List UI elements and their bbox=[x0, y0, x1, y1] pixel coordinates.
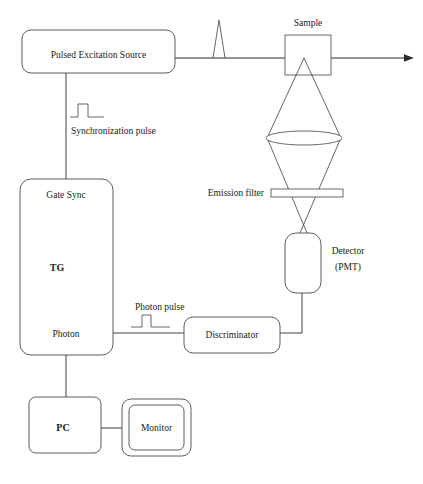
pulsed-excitation-source-block[interactable]: Pulsed Excitation Source bbox=[22, 30, 175, 73]
photon-pulse-icon bbox=[131, 315, 170, 327]
sample-box bbox=[285, 35, 331, 75]
monitor-label: Monitor bbox=[141, 423, 173, 433]
detector-block[interactable]: Detector (PMT) bbox=[285, 233, 365, 293]
sample-block[interactable] bbox=[285, 35, 331, 75]
beam-arrowhead-icon bbox=[404, 54, 414, 61]
synchronization-pulse-label: Synchronization pulse bbox=[71, 126, 156, 136]
pulsed-excitation-source-label: Pulsed Excitation Source bbox=[51, 50, 147, 60]
tg-label: TG bbox=[50, 262, 65, 273]
diagram-canvas: Pulsed Excitation Source Synchronization… bbox=[0, 0, 423, 484]
emission-filter-label: Emission filter bbox=[208, 188, 265, 198]
detector-box bbox=[285, 233, 321, 293]
emission-filter-icon bbox=[271, 189, 343, 197]
lens-icon bbox=[266, 131, 342, 145]
photon-label: Photon bbox=[53, 329, 80, 339]
monitor-block[interactable]: Monitor bbox=[122, 399, 191, 456]
schematic-svg: Pulsed Excitation Source Synchronization… bbox=[0, 0, 423, 484]
discriminator-label: Discriminator bbox=[206, 330, 260, 340]
detector-to-discriminator-connector bbox=[280, 293, 302, 333]
emission-cone-lower bbox=[268, 140, 340, 233]
emission-filter-block bbox=[271, 189, 343, 197]
sample-label: Sample bbox=[294, 18, 323, 28]
synchronization-pulse-icon bbox=[70, 104, 104, 117]
excitation-pulse-icon bbox=[213, 20, 225, 58]
pc-block[interactable]: PC bbox=[29, 397, 101, 453]
tg-block[interactable]: Gate Sync TG Photon bbox=[20, 179, 113, 355]
pc-label: PC bbox=[56, 422, 69, 433]
gate-sync-label: Gate Sync bbox=[46, 190, 85, 200]
discriminator-block[interactable]: Discriminator bbox=[184, 317, 280, 353]
converging-ray-left bbox=[268, 140, 307, 233]
lens-block bbox=[266, 131, 342, 145]
detector-label-line1: Detector bbox=[332, 246, 366, 256]
photon-pulse-label: Photon pulse bbox=[135, 302, 184, 312]
converging-ray-right bbox=[300, 140, 340, 233]
detector-label-line2: (PMT) bbox=[335, 262, 361, 273]
detector-discriminator-line bbox=[280, 293, 302, 333]
